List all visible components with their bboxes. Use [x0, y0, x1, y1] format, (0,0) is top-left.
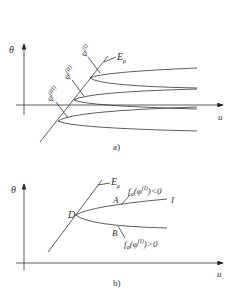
upper-condition-label: fφ(φ(I))<0 [128, 185, 162, 197]
point-b-label: B [112, 228, 118, 238]
lower-condition-leader [118, 226, 125, 238]
point-a-label: A [112, 195, 119, 205]
theta-label-a: θ [9, 44, 14, 55]
curve-1-lower [90, 78, 197, 88]
curve-3-upper [58, 107, 197, 121]
u-label-a: u [218, 112, 223, 122]
figure-b: θ u Eρ D A B I fφ(φ(I))<0 fφ(φ(I))>0 b) [11, 176, 223, 288]
phi2-label: φ(II) [61, 64, 77, 81]
caption-a: a) [113, 142, 120, 152]
u-label-b: u [217, 269, 222, 279]
upper-curve-b [76, 199, 167, 215]
curve-1-upper [90, 68, 197, 78]
phi1-label: φ(I) [78, 43, 93, 58]
caption-b: b) [113, 278, 121, 288]
theta-label-b: θ [11, 184, 16, 195]
phi3-leader [56, 102, 68, 118]
lower-curve-b [76, 215, 167, 228]
figure-a: θ u Eρ φ(I) φ(II) φ(III) a) [9, 43, 223, 152]
phi3-label: φ(III) [44, 85, 62, 104]
curve-2-upper [74, 89, 197, 100]
boundary-label-b: Eρ [110, 176, 120, 189]
boundary-leader-a [104, 57, 116, 62]
boundary-label-a: Eρ [116, 51, 126, 64]
phi1-leader [88, 57, 100, 73]
point-d-label: D [67, 209, 76, 220]
lower-condition-label: fφ(φ(I))>0 [124, 238, 158, 250]
diagram-canvas: θ u Eρ φ(I) φ(II) φ(III) a) θ u Eρ D [0, 0, 237, 295]
curve-3-lower [58, 121, 197, 131]
curve-end-label: I [170, 195, 175, 205]
